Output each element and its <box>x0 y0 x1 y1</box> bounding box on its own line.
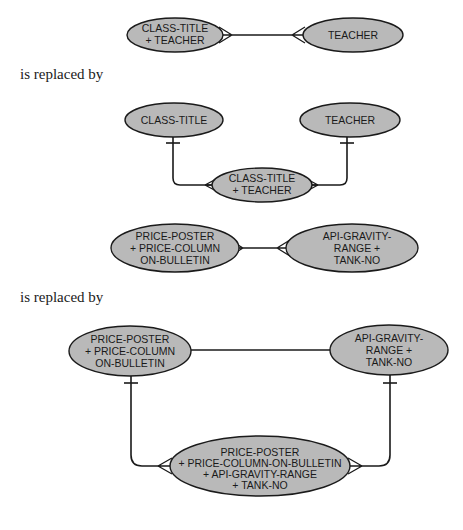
entity-label: TEACHER <box>328 29 379 41</box>
relationship-line <box>173 137 215 185</box>
entity-label: ON-BULLETIN <box>140 254 209 266</box>
entity-label: CLASS-TITLE <box>229 172 296 184</box>
entity-label: TEACHER <box>325 114 376 126</box>
entity-label: + TEACHER <box>232 184 291 196</box>
ex1-after: CLASS-TITLE TEACHER CLASS-TITLE + TEACHE… <box>125 103 400 202</box>
ex1-before: CLASS-TITLE + TEACHER TEACHER <box>127 18 403 52</box>
entity-label: + TEACHER <box>145 34 204 46</box>
entity-label: PRICE-POSTER <box>136 230 215 242</box>
entity-label: + TANK-NO <box>232 479 287 491</box>
relationship-line <box>360 375 390 466</box>
relationship-line <box>310 137 347 185</box>
caption-replaced-by: is replaced by <box>20 66 103 83</box>
caption-replaced-by: is replaced by <box>20 289 103 306</box>
entity-label: CLASS-TITLE <box>141 114 208 126</box>
entity-label: RANGE + <box>366 344 412 356</box>
ex2-after: PRICE-POSTER + PRICE-COLUMN ON-BULLETIN … <box>69 325 448 496</box>
entity-label: PRICE-POSTER <box>91 333 170 345</box>
entity-label: + PRICE-COLUMN <box>85 345 175 357</box>
ex2-before: PRICE-POSTER + PRICE-COLUMN ON-BULLETIN … <box>111 224 418 272</box>
entity-label: TANK-NO <box>366 356 412 368</box>
entity-label: API-GRAVITY- <box>355 332 424 344</box>
entity-label: API-GRAVITY- <box>323 230 392 242</box>
relationship-line <box>131 370 160 466</box>
entity-label: RANGE + <box>334 242 380 254</box>
entity-label: TANK-NO <box>334 254 380 266</box>
entity-label: CLASS-TITLE <box>142 22 209 34</box>
entity-label: ON-BULLETIN <box>95 357 164 369</box>
entity-label: + PRICE-COLUMN <box>130 242 220 254</box>
